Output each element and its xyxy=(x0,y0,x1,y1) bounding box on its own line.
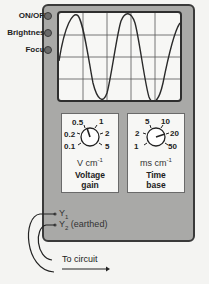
y2-terminal[interactable]: Y2 (earthed) xyxy=(59,219,107,231)
to-circuit-label: To circuit xyxy=(62,254,98,264)
input-leads xyxy=(0,0,209,284)
